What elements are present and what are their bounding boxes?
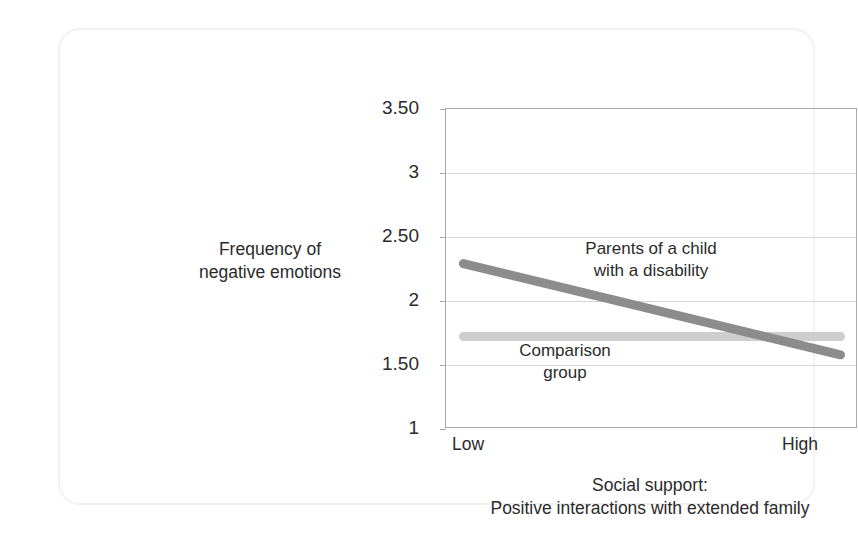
series-label-parents-of-child-with-disability: Parents of a child with a disability — [565, 238, 737, 282]
y-axis-title-line-2: negative emotions — [180, 261, 360, 284]
figure-root: Data from Ha, Greenberg, & Seltzer (2011… — [0, 0, 858, 543]
x-axis-title-line-1: Social support: — [390, 474, 858, 497]
x-axis-title: Social support: Positive interactions wi… — [390, 474, 858, 520]
series-label-disability-line-2: with a disability — [565, 260, 737, 282]
series-label-disability-line-1: Parents of a child — [565, 238, 737, 260]
x-axis-tick-label-low: Low — [452, 434, 484, 455]
y-axis-tick-label: 3 — [329, 161, 419, 183]
y-axis-tick-mark — [440, 429, 446, 430]
y-axis-tick-label: 1 — [329, 417, 419, 439]
y-axis-tick-mark — [440, 173, 446, 174]
y-axis-tick-label: 2 — [329, 289, 419, 311]
y-axis-tick-label: 2.50 — [329, 225, 419, 247]
y-axis-tick-mark — [440, 237, 446, 238]
y-axis-tick-mark — [440, 365, 446, 366]
y-axis-tick-mark — [440, 301, 446, 302]
gridline — [446, 173, 856, 174]
y-axis-tick-mark — [440, 109, 446, 110]
gridline — [446, 301, 856, 302]
figure-card: Frequency of negative emotions 3.5032.50… — [58, 28, 815, 505]
y-axis-tick-label: 1.50 — [329, 353, 419, 375]
x-axis-tick-label-high: High — [782, 434, 818, 455]
series-label-comparison-line-2: group — [485, 362, 645, 384]
series-label-comparison-group: Comparison group — [485, 340, 645, 384]
x-axis-title-line-2: Positive interactions with extended fami… — [390, 497, 858, 520]
series-label-comparison-line-1: Comparison — [485, 340, 645, 362]
y-axis-tick-label: 3.50 — [329, 97, 419, 119]
